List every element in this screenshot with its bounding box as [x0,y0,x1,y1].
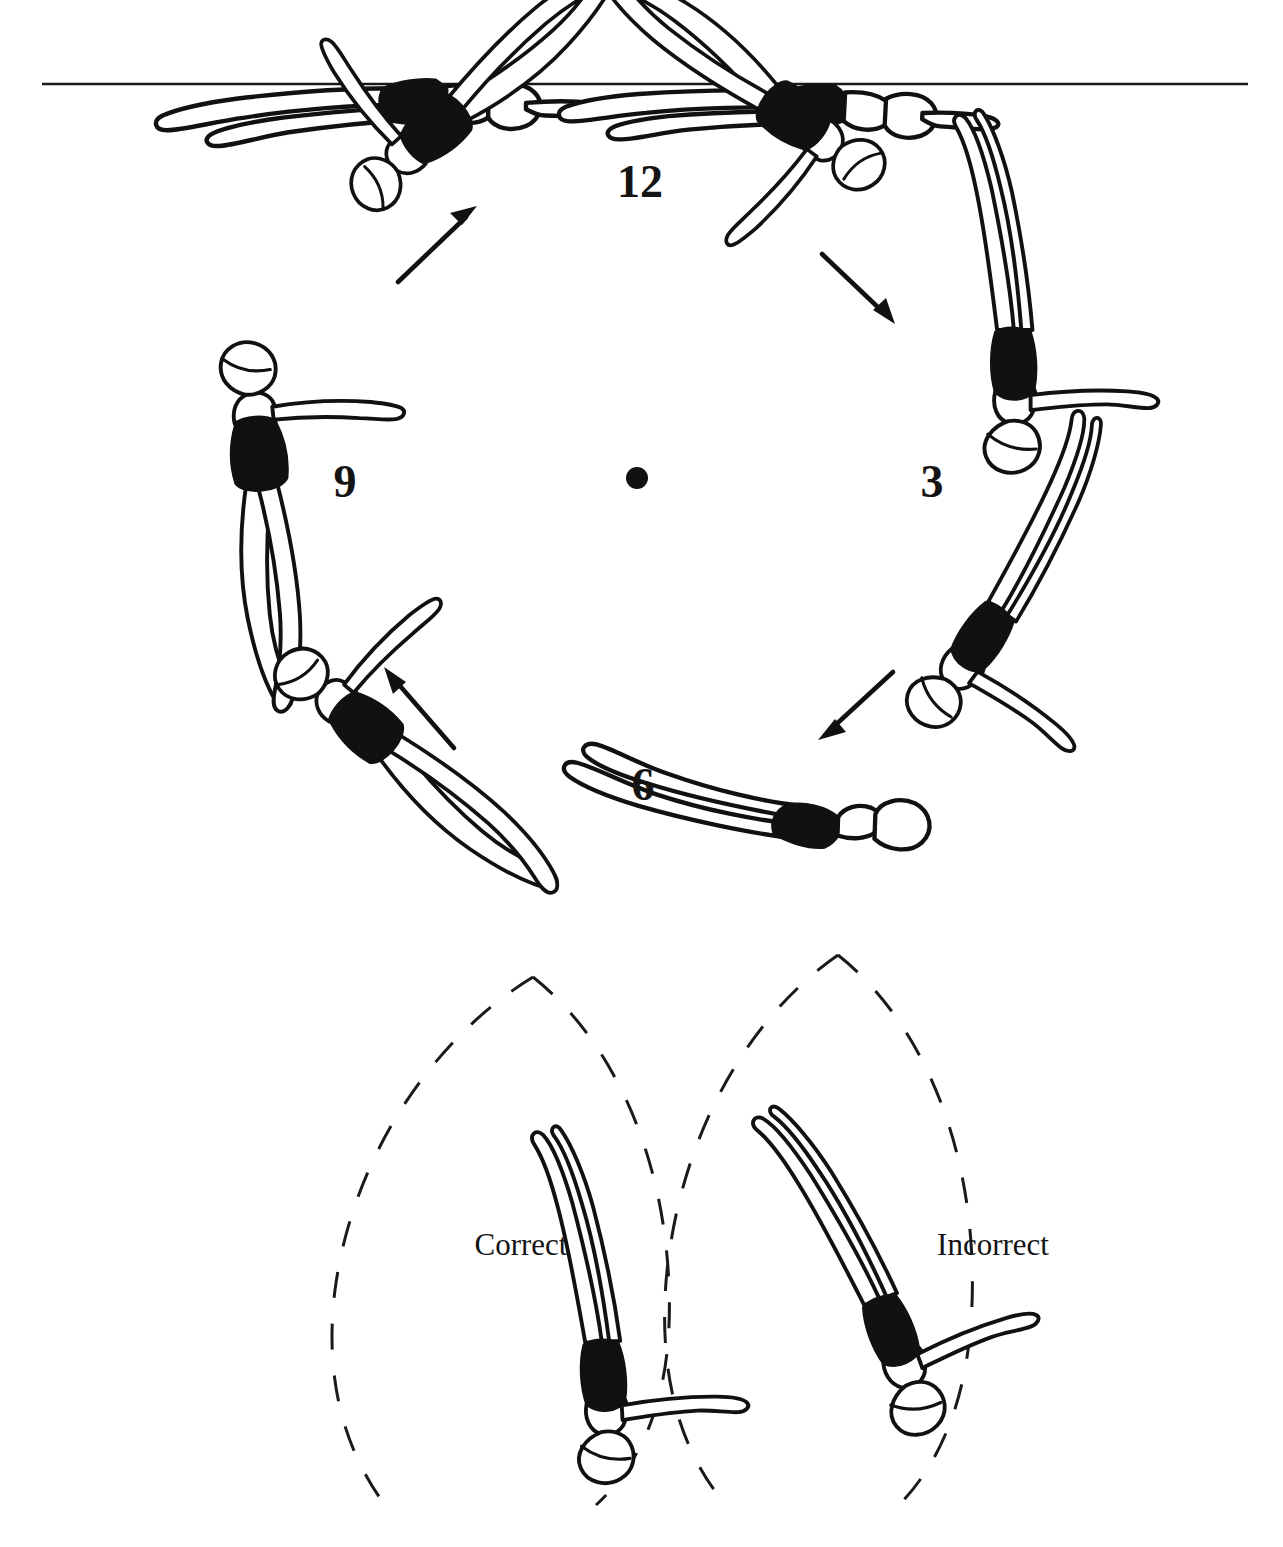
swimmer-9-oclock [218,326,434,714]
swimming-clock-diagram: 12 3 6 9 Correct Incorrect [0,0,1283,1547]
clock-numeral-9: 9 [334,456,357,507]
incorrect-label: Incorrect [937,1227,1049,1262]
diagram-canvas: 12 3 6 9 Correct Incorrect [0,0,1283,1547]
clock-numeral-3: 3 [921,456,944,507]
arrow-upper-left [398,206,477,282]
swimmer-8-oclock [265,546,651,909]
center-dot [626,467,648,489]
swimmer-correct [532,1117,752,1486]
correct-label: Correct [475,1227,568,1262]
arrow-upper-right [822,254,895,324]
arrow-lower-right [818,672,893,740]
clock-numeral-6: 6 [632,759,655,810]
swimmer-3-oclock [954,110,1158,473]
swimmer-6-oclock [562,743,932,852]
clock-numeral-12: 12 [617,156,663,207]
